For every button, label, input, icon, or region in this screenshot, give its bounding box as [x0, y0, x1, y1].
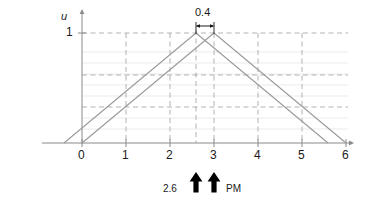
y-tick-label-1: 1 [66, 27, 73, 38]
up-arrow-2.6-icon [190, 172, 203, 193]
x-tick-label-3: 3 [210, 150, 217, 161]
up-arrow-pm-icon [208, 172, 221, 193]
y-axis [80, 9, 85, 143]
dimension-line-0.4 [196, 22, 215, 34]
x-tick-label-1: 1 [122, 150, 129, 161]
dimension-label-0.4: 0.4 [195, 7, 210, 18]
x-tick-label-0: 0 [78, 150, 85, 161]
faint-gridlines [82, 52, 348, 129]
x-tick-label-5: 5 [298, 150, 305, 161]
x-tick-label-6: 6 [342, 150, 349, 161]
chart-canvas [0, 0, 366, 205]
vertical-gridlines [126, 30, 302, 143]
y-axis-label: u [61, 11, 67, 22]
marker-label-pm: PM [226, 183, 241, 194]
x-tick-label-2: 2 [166, 150, 173, 161]
marker-arrows [190, 172, 221, 193]
x-axis [42, 141, 354, 146]
marker-label-2.6: 2.6 [163, 183, 177, 194]
x-tick-label-4: 4 [254, 150, 261, 161]
